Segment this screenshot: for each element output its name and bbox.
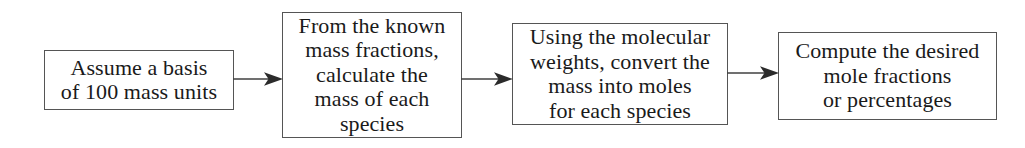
flow-step-label-3: Using the molecular weights, convert the… — [513, 25, 727, 123]
flow-step-box-2[interactable]: From the known mass fractions, calculate… — [282, 12, 462, 138]
flow-arrow-icon-3 — [727, 64, 779, 82]
flow-step-label-1: Assume a basis of 100 mass units — [45, 56, 233, 105]
flow-step-label-2: From the known mass fractions, calculate… — [283, 14, 461, 137]
flow-step-label-4: Compute the desired mole fractions or pe… — [779, 39, 996, 113]
flow-step-box-4[interactable]: Compute the desired mole fractions or pe… — [778, 32, 997, 120]
flow-arrow-icon-2 — [461, 70, 513, 88]
flowchart-canvas: Assume a basis of 100 mass units From th… — [0, 0, 1025, 148]
flow-step-box-3[interactable]: Using the molecular weights, convert the… — [512, 23, 728, 125]
flow-arrow-icon-1 — [233, 70, 283, 88]
flow-step-box-1[interactable]: Assume a basis of 100 mass units — [44, 50, 234, 110]
